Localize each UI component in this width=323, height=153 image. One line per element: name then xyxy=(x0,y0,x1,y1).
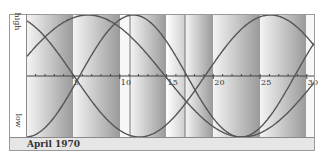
y-label-column: high low xyxy=(9,14,27,137)
x-tick-label: 10 xyxy=(121,78,131,87)
x-tick-label: 25 xyxy=(261,78,271,87)
y-label-high: high xyxy=(9,17,27,37)
x-tick-label: 20 xyxy=(214,78,224,87)
month-label: April 1970 xyxy=(27,139,80,149)
footer-bar: April 1970 xyxy=(9,137,315,151)
y-label-low: low xyxy=(9,116,27,136)
x-tick-label: 30 xyxy=(308,78,318,87)
biorhythm-plot: 51015202530 xyxy=(0,0,323,153)
